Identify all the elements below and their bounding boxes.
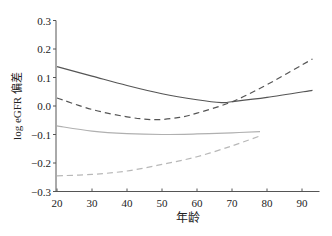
series-line-dark-dashed bbox=[57, 59, 313, 120]
y-tick-label: 0.0 bbox=[37, 100, 51, 112]
series-line-light-dashed bbox=[57, 136, 260, 176]
x-tick-label: 60 bbox=[192, 197, 204, 209]
y-tick-label: −0.1 bbox=[31, 129, 51, 141]
x-tick-label: 70 bbox=[227, 197, 239, 209]
x-axis-label: 年龄 bbox=[176, 211, 200, 225]
y-tick-label: −0.2 bbox=[31, 157, 51, 169]
y-tick-label: 0.3 bbox=[37, 15, 51, 27]
axes: 0.30.20.10.0−0.1−0.2−0.32030405060708090 bbox=[31, 15, 319, 209]
y-tick-label: −0.3 bbox=[31, 186, 51, 198]
y-tick-label: 0.1 bbox=[37, 72, 51, 84]
x-tick-label: 20 bbox=[52, 197, 64, 209]
line-chart: 0.30.20.10.0−0.1−0.2−0.32030405060708090… bbox=[0, 0, 332, 236]
series-line-dark-solid bbox=[57, 67, 313, 103]
y-axis-label: log eGFR 偏差 bbox=[10, 72, 23, 140]
series-line-light-solid bbox=[57, 126, 260, 135]
x-tick-label: 90 bbox=[297, 197, 309, 209]
x-tick-label: 50 bbox=[157, 197, 169, 209]
x-tick-label: 80 bbox=[262, 197, 274, 209]
y-tick-label: 0.2 bbox=[37, 43, 51, 55]
x-tick-label: 30 bbox=[87, 197, 99, 209]
x-tick-label: 40 bbox=[122, 197, 134, 209]
series-lines bbox=[57, 59, 313, 176]
